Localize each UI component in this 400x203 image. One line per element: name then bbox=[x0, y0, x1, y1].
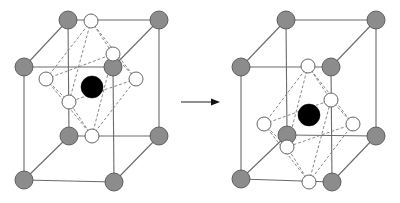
corner-atom-bfl bbox=[232, 170, 250, 188]
octahedral-atom-back bbox=[106, 47, 120, 61]
cube-edge bbox=[24, 20, 68, 67]
cube-edge bbox=[114, 136, 159, 182]
central-atom bbox=[81, 76, 103, 98]
cube-edge bbox=[241, 20, 286, 67]
cube-edge bbox=[331, 20, 376, 67]
corner-atom-tfl bbox=[15, 58, 33, 76]
corner-atom-bbr bbox=[367, 127, 385, 145]
crystal-structure-diagram bbox=[0, 0, 400, 203]
central-atom bbox=[298, 104, 320, 126]
arrow-head-icon bbox=[211, 99, 220, 106]
cube-edge bbox=[286, 20, 287, 135]
corner-atom-bbr bbox=[150, 127, 168, 145]
octahedron-edge bbox=[264, 100, 331, 124]
octahedral-atom-left bbox=[39, 72, 53, 86]
corner-atom-bfr bbox=[323, 173, 341, 191]
corner-atom-bbl bbox=[60, 127, 78, 145]
octahedral-atom-top bbox=[84, 14, 98, 28]
corner-atom-tbl bbox=[277, 11, 295, 29]
corner-atom-bfr bbox=[105, 173, 123, 191]
cube-edge bbox=[331, 67, 332, 182]
octahedral-atom-bottom bbox=[85, 129, 99, 143]
octahedral-atom-right bbox=[346, 117, 360, 131]
left-unit-cell bbox=[15, 11, 168, 191]
octahedral-atom-left bbox=[257, 117, 271, 131]
cube-edge bbox=[24, 180, 114, 182]
corner-atom-tfl bbox=[232, 58, 250, 76]
corner-atom-tbr bbox=[367, 11, 385, 29]
octahedral-atom-front bbox=[62, 95, 76, 109]
right-unit-cell bbox=[232, 11, 385, 191]
octahedral-atom-bottom bbox=[302, 175, 316, 189]
cube-edge bbox=[113, 20, 159, 67]
cube-edge bbox=[241, 135, 287, 179]
diagram-canvas bbox=[0, 0, 400, 203]
cube-edge bbox=[68, 20, 69, 136]
cube-edge bbox=[332, 136, 376, 182]
octahedral-atom-top bbox=[301, 59, 315, 73]
corner-atom-tbl bbox=[59, 11, 77, 29]
octahedral-atom-back bbox=[324, 93, 338, 107]
cube-edge bbox=[113, 67, 114, 182]
corner-atom-bfl bbox=[15, 171, 33, 189]
octahedral-atom-right bbox=[129, 72, 143, 86]
transition-arrow bbox=[181, 99, 220, 106]
corner-atom-tfr bbox=[322, 58, 340, 76]
octahedral-atom-front bbox=[280, 140, 294, 154]
corner-atom-tbr bbox=[150, 11, 168, 29]
cube-edge bbox=[241, 179, 332, 182]
